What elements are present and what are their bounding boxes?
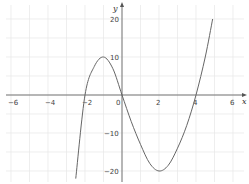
svg-text:20: 20 — [110, 16, 119, 24]
svg-text:10: 10 — [110, 54, 119, 62]
x-tick-labels: −6−4−20246 — [8, 99, 235, 107]
grid-lines — [6, 5, 244, 182]
x-axis-label: x — [242, 97, 247, 106]
svg-text:−6: −6 — [8, 99, 19, 107]
svg-text:6: 6 — [230, 99, 235, 107]
x-axis — [6, 93, 247, 97]
svg-text:−4: −4 — [45, 99, 56, 107]
svg-text:−20: −20 — [104, 168, 119, 176]
svg-text:0: 0 — [116, 99, 120, 107]
svg-text:2: 2 — [156, 99, 160, 107]
cubic-graph: −6−4−20246 2010−10−20 x y — [0, 0, 249, 184]
svg-text:−10: −10 — [104, 130, 119, 138]
y-axis-label: y — [112, 4, 118, 13]
